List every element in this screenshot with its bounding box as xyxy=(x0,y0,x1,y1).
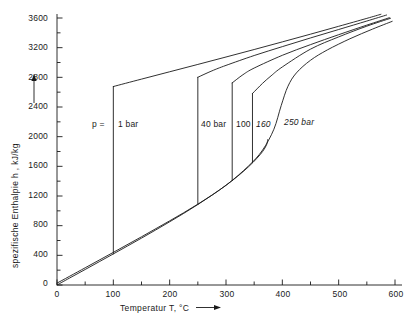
y-axis-title: spezifische Enthalpie h , kJ/kg xyxy=(10,143,20,268)
y-tick-label: 0 xyxy=(14,278,48,288)
enthalpy-temperature-chart: 3600 3200 2800 2400 2000 1600 1200 800 4… xyxy=(0,0,420,325)
axis-ticks xyxy=(57,18,395,285)
isobar-label-1bar: 1 bar xyxy=(118,119,138,129)
x-tick-label: 200 xyxy=(158,289,182,299)
x-tick-label: 400 xyxy=(271,289,295,299)
curve-saturated-liquid-line-siedelinie xyxy=(57,140,268,285)
x-axis-arrow-icon xyxy=(214,305,221,310)
curve-isobar-250-bar-supercritical xyxy=(57,21,392,283)
axis-label-arrows xyxy=(31,74,221,310)
x-axis-title: Temperatur T, °C xyxy=(120,303,189,313)
curve-isobar-40-bar-superheated-vapour xyxy=(198,15,387,77)
y-tick-label: 2800 xyxy=(14,72,48,82)
chart-curves xyxy=(57,14,392,285)
p-equals-label: p = xyxy=(92,119,105,129)
isobar-label-160bar: 160 xyxy=(256,119,271,129)
isobar-label-40bar: 40 bar xyxy=(201,119,226,129)
x-tick-label: 600 xyxy=(384,289,408,299)
isobar-label-250bar: 250 bar xyxy=(284,117,314,127)
isobar-label-100bar: 100 xyxy=(236,119,251,129)
x-tick-label: 300 xyxy=(215,289,239,299)
y-tick-label: 2400 xyxy=(14,101,48,111)
chart-plot-area xyxy=(0,0,420,325)
y-tick-label: 3200 xyxy=(14,42,48,52)
x-tick-label: 0 xyxy=(47,289,67,299)
curve-isobar-100-bar-superheated-vapour xyxy=(232,18,389,83)
curve-isobar-1-bar-superheated-vapour xyxy=(113,14,381,86)
curve-isobar-160-bar-superheated-vapour xyxy=(252,18,390,93)
x-tick-label: 500 xyxy=(328,289,352,299)
y-tick-label: 3600 xyxy=(14,13,48,23)
axis-lines xyxy=(57,14,402,285)
y-tick-label: 2000 xyxy=(14,131,48,141)
x-tick-label: 100 xyxy=(101,289,125,299)
